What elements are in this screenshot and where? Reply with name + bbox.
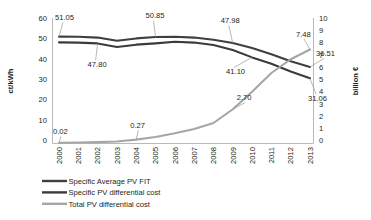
x-axis-category-label: 2013 [306, 147, 315, 164]
x-axis-category-label: 2009 [229, 147, 238, 164]
annotation-leader-line [136, 130, 138, 140]
y2-tick-label: 2 [319, 112, 323, 121]
annotation-leader-line [310, 78, 316, 94]
data-point-label: 50.85 [146, 11, 165, 20]
y2-tick-label: 8 [319, 38, 323, 47]
y2-tick-label: 1 [319, 124, 323, 133]
data-point-label: 7.48 [296, 30, 311, 39]
annotation-leader-line [96, 43, 98, 60]
y-tick-label: 0 [43, 136, 47, 145]
y-axis-left-title: ct/kWh [6, 68, 15, 93]
y-tick-label: 10 [39, 116, 47, 125]
x-axis-category-label: 2005 [151, 147, 160, 164]
line-chart-svg: 60 50 40 30 20 10 0 ct/kWh 10 9 8 7 6 5 … [0, 0, 371, 220]
data-point-label: 41.10 [226, 67, 245, 76]
legend-item-label: Specific PV differential cost [69, 188, 162, 197]
x-axis-category-label: 2000 [55, 147, 64, 164]
x-axis-category-label: 2007 [190, 147, 199, 164]
x-axis-category-label: 2001 [74, 147, 83, 164]
y2-tick-label: 9 [319, 26, 323, 35]
data-point-label: 47.80 [88, 60, 107, 69]
chart-legend: Specific Average PV FITSpecific PV diffe… [42, 177, 161, 209]
legend-item-label: Total PV differential cost [69, 200, 151, 209]
x-axis-category-labels: 2000200120022003200420052006200720082009… [55, 147, 315, 164]
x-axis-category-label: 2008 [209, 147, 218, 164]
data-point-label: 31.06 [308, 94, 327, 103]
x-axis-category-label: 2004 [132, 147, 141, 164]
x-axis-category-label: 2003 [113, 147, 122, 164]
y-tick-label: 60 [39, 14, 47, 23]
chart-container: 60 50 40 30 20 10 0 ct/kWh 10 9 8 7 6 5 … [0, 0, 371, 220]
data-point-label: 0.27 [130, 121, 145, 130]
data-point-label: 2.70 [237, 93, 252, 102]
annotation-leader-line [59, 22, 63, 37]
x-axis-category-label: 2011 [267, 147, 276, 163]
annotation-leader-line [229, 26, 233, 44]
y-tick-label: 20 [39, 95, 47, 104]
y2-tick-label: 10 [319, 14, 327, 23]
annotation-leader-line [304, 39, 310, 50]
x-axis-category-label: 2012 [286, 147, 295, 164]
data-point-label: 36.51 [316, 49, 335, 58]
legend-item-label: Specific Average PV FIT [69, 177, 152, 186]
annotation-leader-line [234, 57, 252, 67]
y2-tick-label: 5 [319, 75, 323, 84]
y-axis-right-title: billion € [351, 66, 360, 95]
y-tick-label: 40 [39, 55, 47, 64]
y-tick-label: 30 [39, 75, 47, 84]
chart-annotations-layer: 51.0550.8547.9836.5147.8041.1031.060.020… [53, 11, 335, 143]
y-tick-label: 50 [39, 34, 47, 43]
annotation-leader-line [154, 21, 156, 38]
x-axis-category-label: 2010 [248, 147, 257, 164]
y2-tick-label: 0 [319, 136, 323, 145]
x-axis-category-label: 2006 [171, 147, 180, 164]
y2-tick-label: 6 [319, 63, 323, 72]
y-axis-left-ticks: 60 50 40 30 20 10 0 [39, 14, 47, 145]
data-point-label: 47.98 [221, 16, 240, 25]
y-axis-right-ticks: 10 9 8 7 6 5 4 3 2 1 0 [319, 14, 327, 145]
data-point-label: 0.02 [53, 127, 68, 136]
x-axis-category-label: 2002 [93, 147, 102, 164]
data-point-label: 51.05 [55, 13, 74, 22]
